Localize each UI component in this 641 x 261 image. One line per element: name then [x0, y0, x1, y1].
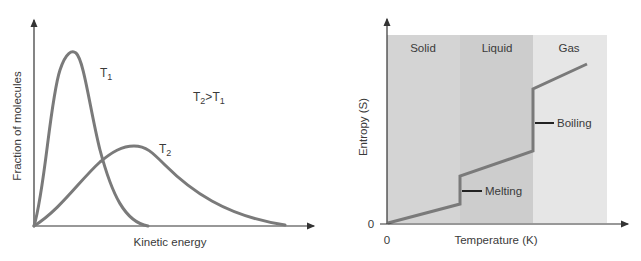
region-label-gas: Gas [558, 42, 579, 54]
region-gas [533, 35, 607, 223]
region-label-solid: Solid [410, 42, 436, 54]
melting-label: Melting [485, 185, 522, 197]
label-t2-greater-than-t1: T2>T1 [193, 90, 225, 106]
y-axis-label: Fraction of molecules [11, 71, 23, 181]
curve-t1 [34, 52, 148, 226]
x-origin-label: 0 [384, 234, 390, 246]
y-origin-label: 0 [368, 218, 374, 230]
label-t1: T1 [100, 66, 112, 82]
y-axis-label: Entropy (S) [357, 98, 369, 156]
x-axis-label: Temperature (K) [454, 234, 537, 246]
kinetic-energy-distribution-chart: T1 T2 T2>T1 Kinetic energy Fraction of m… [11, 20, 314, 248]
boiling-label: Boiling [557, 117, 592, 129]
region-label-liquid: Liquid [482, 42, 513, 54]
label-t2: T2 [159, 142, 171, 158]
curve-t2 [34, 146, 285, 226]
region-solid [387, 35, 460, 223]
x-axis-label: Kinetic energy [134, 236, 207, 248]
entropy-temperature-chart: Solid Liquid Gas Melting Boiling 0 0 Tem… [357, 19, 628, 246]
figure-canvas: T1 T2 T2>T1 Kinetic energy Fraction of m… [0, 0, 641, 261]
